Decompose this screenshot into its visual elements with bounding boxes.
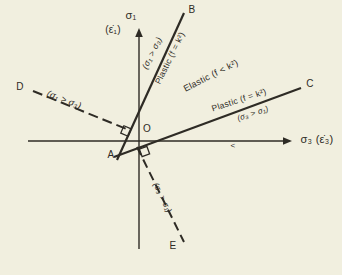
- line-C-label: C: [306, 79, 314, 89]
- x-axis-arrow-icon: [283, 137, 292, 145]
- line-B-label: B: [189, 5, 196, 15]
- right-angle-marker-EC: [139, 146, 149, 156]
- origin-point-label: O: [143, 124, 151, 134]
- x-axis-label: σ₃ (ε̇₃): [300, 134, 333, 145]
- y-axis-arrow-icon: [135, 28, 143, 37]
- y-axis-rate-label: (ε̇₁): [105, 25, 121, 35]
- yield-surface-diagram: σ₁ (ε̇₁) σ₃ (ε̇₃) < B C D E O A (σ₁ > σ₃…: [0, 0, 342, 275]
- line-D-label: D: [16, 82, 24, 92]
- x-axis-direction-mark: <: [231, 142, 236, 150]
- apex-point-label: A: [108, 150, 115, 160]
- line-E-label: E: [170, 241, 177, 251]
- y-axis-symbol: σ₁: [125, 10, 136, 21]
